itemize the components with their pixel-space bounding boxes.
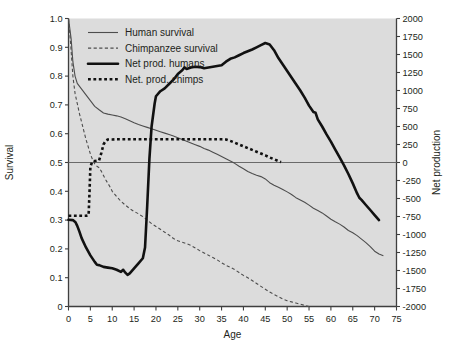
y-axis-left-tick-label: 0.4: [50, 187, 63, 197]
y-axis-right-tick-label: -1500: [403, 266, 427, 276]
y-axis-right-tick-label: -500: [403, 194, 421, 204]
y-axis-right-tick-label: -750: [403, 212, 421, 222]
x-axis-tick-label: 35: [216, 314, 226, 324]
y-axis-left-tick-label: 0.5: [50, 158, 63, 168]
y-axis-left-tick-label: 0.8: [50, 71, 63, 81]
x-axis-title: Age: [224, 329, 242, 340]
x-axis-tick-label: 15: [129, 314, 139, 324]
x-axis-tick-label: 25: [173, 314, 183, 324]
x-axis-tick-label: 30: [195, 314, 205, 324]
legend-label-3: Net. prod. chimps: [125, 74, 203, 85]
x-axis-tick-label: 50: [282, 314, 292, 324]
chart-figure: 00.10.20.30.40.50.60.70.80.91.0Survival-…: [0, 0, 450, 349]
y-axis-right-tick-label: -1750: [403, 284, 427, 294]
y-axis-left-title: Survival: [4, 145, 15, 181]
x-axis-tick-label: 65: [348, 314, 358, 324]
legend-label-2: Net prod. humans: [125, 58, 205, 69]
x-axis-tick-label: 20: [151, 314, 161, 324]
y-axis-right-tick-label: -1000: [403, 230, 427, 240]
y-axis-right-tick-label: 750: [403, 104, 418, 114]
legend-label-1: Chimpanzee survival: [125, 43, 218, 54]
x-axis-tick-label: 55: [304, 314, 314, 324]
chart-canvas: 00.10.20.30.40.50.60.70.80.91.0Survival-…: [0, 0, 450, 349]
y-axis-right-title: Net production: [431, 130, 442, 195]
y-axis-right-tick-label: 500: [403, 122, 418, 132]
x-axis-tick-label: 10: [107, 314, 117, 324]
y-axis-right-tick-label: 2000: [403, 14, 423, 24]
x-axis-tick-label: 75: [391, 314, 401, 324]
y-axis-left-tick-label: 0.9: [50, 43, 63, 53]
x-axis-tick-label: 0: [66, 314, 71, 324]
x-axis-tick-label: 45: [260, 314, 270, 324]
y-axis-right-tick-label: -1250: [403, 248, 427, 258]
y-axis-left-tick-label: 0.7: [50, 100, 63, 110]
y-axis-left-tick-label: 0.6: [50, 129, 63, 139]
x-axis-tick-label: 40: [238, 314, 248, 324]
y-axis-right-tick-label: 250: [403, 140, 418, 150]
y-axis-left-tick-label: 0.2: [50, 244, 63, 254]
y-axis-right-tick-label: 1750: [403, 32, 423, 42]
y-axis-right-tick-label: -250: [403, 176, 421, 186]
y-axis-left-tick-label: 1.0: [50, 14, 63, 24]
y-axis-right-tick-label: 1000: [403, 86, 423, 96]
y-axis-left-tick-label: 0.3: [50, 215, 63, 225]
y-axis-left-tick-label: 0.1: [50, 273, 63, 283]
x-axis-tick-label: 60: [326, 314, 336, 324]
y-axis-right-tick-label: 1250: [403, 68, 423, 78]
x-axis-tick-label: 5: [88, 314, 93, 324]
y-axis-right-tick-label: 0: [403, 158, 408, 168]
y-axis-right-tick-label: 1500: [403, 50, 423, 60]
x-axis-tick-label: 70: [370, 314, 380, 324]
y-axis-right-tick-label: -2000: [403, 302, 427, 312]
legend-label-0: Human survival: [125, 27, 194, 38]
chart-svg: 00.10.20.30.40.50.60.70.80.91.0Survival-…: [0, 0, 450, 349]
y-axis-left-tick-label: 0: [57, 302, 62, 312]
